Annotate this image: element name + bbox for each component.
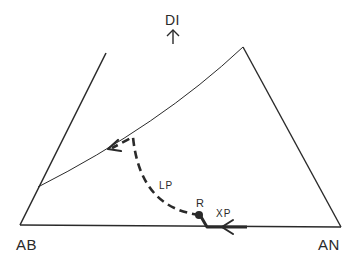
reaction-point-marker bbox=[195, 211, 203, 219]
base-line bbox=[20, 225, 341, 227]
crystal-path-label: XP bbox=[216, 209, 231, 219]
cotectic-boundary-curve bbox=[38, 47, 243, 187]
ternary-diagram-canvas bbox=[0, 0, 357, 265]
vertex-label-di: DI bbox=[165, 13, 180, 27]
vertex-label-an: AN bbox=[318, 237, 340, 252]
liquid-path-curve bbox=[112, 137, 200, 215]
right-side-line bbox=[243, 47, 341, 227]
left-side-line bbox=[20, 53, 106, 225]
vertex-label-ab: AB bbox=[16, 237, 37, 252]
reaction-point-label: R bbox=[196, 198, 205, 209]
liquid-path-label: LP bbox=[159, 181, 173, 191]
up-arrow-icon bbox=[167, 30, 179, 44]
